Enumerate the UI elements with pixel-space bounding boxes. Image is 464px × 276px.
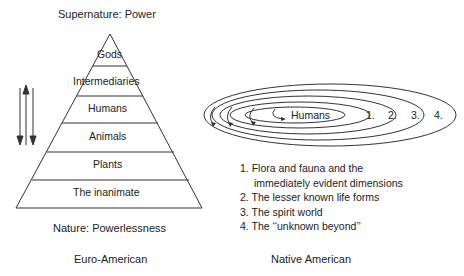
legend-item-1-cont: immediately evident dimensions <box>240 176 403 191</box>
tier-intermediaries: Intermediaries <box>73 75 140 87</box>
center-humans-label: Humans <box>291 109 330 121</box>
legend-item-2: 2. The lesser known life forms <box>240 190 403 205</box>
tier-plants: Plants <box>93 158 122 170</box>
up-down-arrows-icon <box>17 85 36 145</box>
tier-humans: Humans <box>88 102 127 114</box>
curved-arrows-icon <box>210 107 283 124</box>
ring-label-4: 4. <box>434 109 443 121</box>
euro-american-caption: Euro-American <box>74 253 147 265</box>
diagram-graphics <box>0 0 464 276</box>
nature-label: Nature: Powerlessness <box>53 222 166 234</box>
native-american-caption: Native American <box>271 253 351 265</box>
tier-gods: Gods <box>97 48 122 60</box>
pyramid <box>16 34 202 208</box>
tier-animals: Animals <box>89 130 126 142</box>
ring-label-1: 1. <box>366 109 375 121</box>
legend-item-4: 4. The ‘‘unknown beyond’’ <box>240 219 403 234</box>
legend-item-3: 3. The spirit world <box>240 205 403 220</box>
legend-item-1: 1. Flora and fauna and the <box>240 161 403 176</box>
tier-inanimate: The inanimate <box>73 186 140 198</box>
supernature-label: Supernature: Power <box>58 8 156 20</box>
ring-label-3: 3. <box>411 109 420 121</box>
ring-label-2: 2. <box>388 109 397 121</box>
ring-legend: 1. Flora and fauna and the immediately e… <box>240 161 403 234</box>
